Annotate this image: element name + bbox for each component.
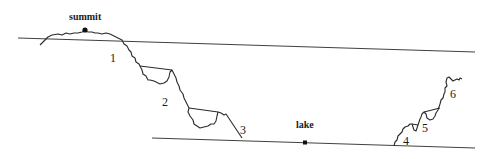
- feature-label-3: 3: [240, 123, 246, 137]
- lake-marker: [303, 141, 307, 145]
- profile-diagram: summit lake 1 2 3 4 5 6: [0, 0, 495, 159]
- feature-label-2: 2: [162, 95, 168, 109]
- left-spur: [40, 35, 52, 45]
- feature-label-4: 4: [403, 134, 409, 148]
- feature-label-1: 1: [110, 51, 116, 65]
- cirque-4-lip: [412, 124, 418, 125]
- cirque-1-lip: [140, 66, 172, 70]
- lower-reference-line: [152, 138, 475, 148]
- summit-marker: [82, 27, 87, 32]
- upper-reference-line: [18, 38, 475, 52]
- mountain-profile-left: [52, 31, 242, 138]
- feature-label-6: 6: [450, 87, 456, 101]
- cirque-2-lip: [189, 108, 218, 112]
- lake-label: lake: [296, 119, 314, 130]
- feature-label-5: 5: [422, 121, 428, 135]
- summit-label: summit: [69, 11, 102, 22]
